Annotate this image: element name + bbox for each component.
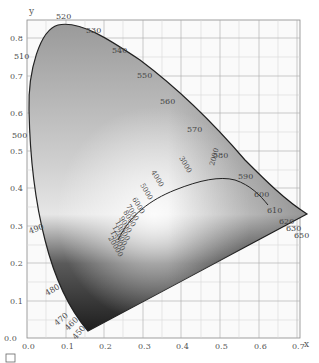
x-axis-title: x xyxy=(304,339,309,349)
svg-text:580: 580 xyxy=(213,151,228,160)
svg-text:0.0: 0.0 xyxy=(4,334,17,343)
svg-text:0.7: 0.7 xyxy=(10,72,23,81)
svg-text:0.7: 0.7 xyxy=(292,342,305,351)
svg-text:0.6: 0.6 xyxy=(254,342,267,351)
svg-text:0.6: 0.6 xyxy=(10,109,23,118)
svg-text:0.2: 0.2 xyxy=(99,342,112,351)
svg-text:0.1: 0.1 xyxy=(10,297,23,306)
svg-text:600: 600 xyxy=(254,190,269,199)
svg-text:610: 610 xyxy=(267,206,282,215)
svg-text:570: 570 xyxy=(187,125,202,134)
svg-text:520: 520 xyxy=(56,12,71,21)
svg-text:0.4: 0.4 xyxy=(10,184,23,193)
svg-text:0.0: 0.0 xyxy=(22,342,35,351)
svg-text:0.8: 0.8 xyxy=(10,34,23,43)
svg-text:0.2: 0.2 xyxy=(10,259,23,268)
svg-text:0.5: 0.5 xyxy=(10,147,23,156)
y-axis-title: y xyxy=(28,6,35,16)
y-axis-labels: 0.00.1 0.20.3 0.40.5 0.60.7 0.8 xyxy=(4,34,23,343)
svg-text:510: 510 xyxy=(14,52,29,61)
svg-text:500: 500 xyxy=(12,131,27,140)
x-axis-labels: 0.00.1 0.20.3 0.40.5 0.60.7 xyxy=(22,342,305,351)
svg-text:530: 530 xyxy=(86,26,101,35)
chromaticity-diagram: 2000 3000 4000 5000 6000 7000 8000 9000 … xyxy=(0,0,319,363)
svg-text:0.3: 0.3 xyxy=(10,222,23,231)
svg-text:0.4: 0.4 xyxy=(176,342,189,351)
square-icon xyxy=(6,354,15,362)
svg-text:560: 560 xyxy=(160,97,175,106)
svg-text:550: 550 xyxy=(137,71,152,80)
svg-text:0.5: 0.5 xyxy=(215,342,228,351)
svg-text:590: 590 xyxy=(238,172,253,181)
svg-text:0.3: 0.3 xyxy=(138,342,151,351)
svg-text:650: 650 xyxy=(294,231,309,240)
svg-text:540: 540 xyxy=(112,46,127,55)
svg-text:0.1: 0.1 xyxy=(61,342,74,351)
